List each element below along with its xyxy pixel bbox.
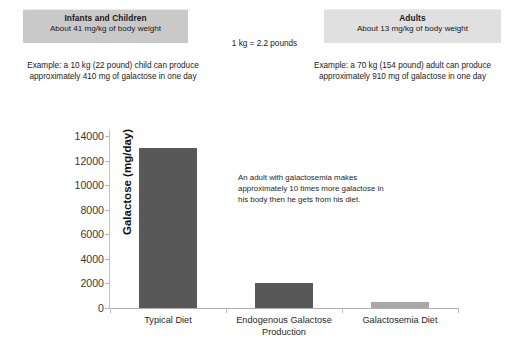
y-axis-line bbox=[109, 130, 110, 308]
x-axis-category-label: Endogenous Galactose Production bbox=[226, 315, 342, 339]
y-axis-tick-mark bbox=[105, 210, 110, 211]
bar bbox=[139, 148, 197, 308]
unit-conversion-note: 1 kg = 2.2 pounds bbox=[212, 39, 317, 48]
y-axis-tick-mark bbox=[105, 136, 110, 137]
category-separator-tick bbox=[226, 308, 227, 313]
bar bbox=[371, 302, 429, 308]
y-axis-tick-label: 0 bbox=[98, 302, 104, 314]
x-axis-line bbox=[109, 308, 458, 309]
y-axis-tick-label: 4000 bbox=[80, 253, 104, 265]
category-separator-tick bbox=[342, 308, 343, 313]
y-axis-tick-label: 6000 bbox=[80, 228, 104, 240]
x-axis-category-label: Typical Diet bbox=[110, 315, 226, 327]
y-axis-tick-mark bbox=[105, 161, 110, 162]
y-axis-tick-mark bbox=[105, 259, 110, 260]
bar bbox=[255, 283, 313, 308]
info-box-infants-title: Infants and Children bbox=[23, 13, 188, 23]
info-box-adults-title: Adults bbox=[324, 13, 501, 23]
y-axis-tick-mark bbox=[105, 234, 110, 235]
plot-area: Galactose (mg/day) 020004000600080001000… bbox=[110, 136, 458, 308]
chart-annotation: An adult with galactosemia makes approxi… bbox=[238, 172, 390, 206]
info-box-infants-subtitle: About 41 mg/kg of body weight bbox=[23, 24, 188, 34]
info-box-adults: Adults About 13 mg/kg of body weight bbox=[324, 10, 501, 43]
y-axis-tick-label: 10000 bbox=[75, 179, 104, 191]
example-text-adults: Example: a 70 kg (154 pound) adult can p… bbox=[300, 60, 505, 83]
y-axis-tick-label: 14000 bbox=[75, 130, 104, 142]
page-root: Infants and Children About 41 mg/kg of b… bbox=[0, 0, 514, 352]
y-axis-tick-label: 2000 bbox=[80, 277, 104, 289]
bar-chart: Galactose (mg/day) 020004000600080001000… bbox=[0, 118, 514, 352]
category-separator-tick bbox=[110, 308, 111, 313]
info-box-adults-subtitle: About 13 mg/kg of body weight bbox=[324, 24, 501, 34]
y-axis-tick-mark bbox=[105, 185, 110, 186]
category-separator-tick bbox=[458, 308, 459, 313]
y-axis-tick-mark bbox=[105, 283, 110, 284]
info-box-infants-and-children: Infants and Children About 41 mg/kg of b… bbox=[23, 10, 188, 43]
y-axis-tick-label: 8000 bbox=[80, 204, 104, 216]
x-axis-category-label: Galactosemia Diet bbox=[342, 315, 458, 327]
y-axis-tick-label: 12000 bbox=[75, 155, 104, 167]
y-axis-title: Galactose (mg/day) bbox=[121, 102, 133, 262]
example-text-infants: Example: a 10 kg (22 pound) child can pr… bbox=[18, 60, 208, 83]
